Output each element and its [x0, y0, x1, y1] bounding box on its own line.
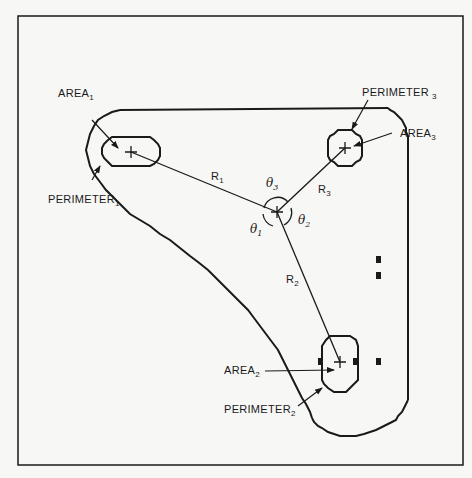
area2-label: AREA2	[224, 364, 260, 379]
perimeter1-label: PERIMETER1	[48, 193, 120, 208]
theta3-label: θ3	[266, 176, 278, 192]
theta2-label: θ2	[298, 213, 310, 229]
area1-label: AREA1	[58, 87, 94, 102]
cross-markers	[125, 142, 351, 368]
boundary-markers	[318, 256, 381, 365]
diagram-canvas: AREA1 PERIMETER1 PERIMETER3 AREA3 AREA2 …	[0, 0, 472, 478]
figure-frame	[18, 16, 463, 465]
r2-label: R2	[286, 273, 299, 288]
outer-shape-boundary	[86, 108, 408, 436]
area3-label: AREA3	[400, 127, 436, 142]
callout-arrows	[92, 100, 392, 406]
r3-label: R3	[318, 183, 331, 198]
radius-r2-line	[277, 212, 340, 362]
perimeter2-label: PERIMETER2	[224, 403, 296, 418]
radius-r1-line	[131, 152, 277, 212]
radius-r3-line	[277, 148, 345, 212]
perimeter3-label: PERIMETER3	[362, 86, 437, 101]
theta1-label: θ1	[250, 222, 262, 238]
r1-label: R1	[211, 170, 224, 185]
